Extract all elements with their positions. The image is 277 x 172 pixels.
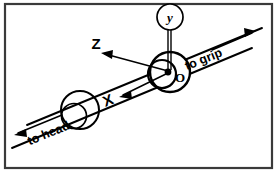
diagram-canvas: y Z X O to head to grip bbox=[0, 0, 277, 172]
axis-z-label: Z bbox=[91, 35, 100, 52]
coordinate-frame-diagram: y Z X O to head to grip bbox=[0, 0, 277, 172]
origin-label: O bbox=[175, 70, 185, 85]
axis-y-label: y bbox=[165, 10, 173, 25]
figure-border bbox=[5, 4, 272, 168]
origin-dot bbox=[165, 69, 172, 76]
